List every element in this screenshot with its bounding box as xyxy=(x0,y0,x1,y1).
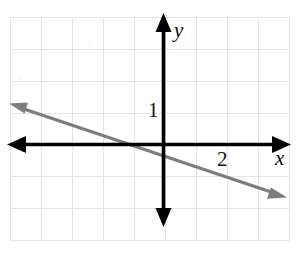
y-axis-label: y xyxy=(174,20,183,41)
x-axis-tick-label-2: 2 xyxy=(217,149,228,170)
scan-speck xyxy=(138,115,139,116)
x-axis-arrowhead-left xyxy=(7,136,26,153)
scan-speck xyxy=(178,150,179,151)
x-axis-label: x xyxy=(275,148,284,169)
graph-canvas xyxy=(0,0,302,254)
y-axis-arrowhead-bottom xyxy=(156,208,172,227)
scan-speck xyxy=(258,114,259,115)
y-axis-tick-label-1: 1 xyxy=(148,100,159,121)
plotted-line-arrowhead-left xyxy=(9,103,28,114)
scan-speck xyxy=(260,33,261,34)
plotted-line-arrowhead-right xyxy=(267,188,287,199)
grid-lines xyxy=(10,17,290,241)
scan-speck xyxy=(89,41,90,42)
y-axis-arrowhead-top xyxy=(156,13,172,32)
scan-speck xyxy=(19,79,20,80)
coordinate-graph-figure: y x 1 2 xyxy=(0,0,302,254)
